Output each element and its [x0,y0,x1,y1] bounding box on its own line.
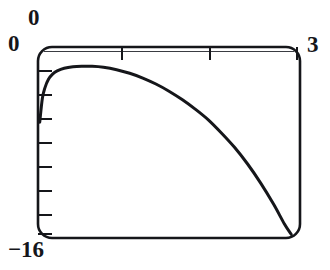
chart-figure: 0 0 3 −16 [0,0,330,270]
axis-label-y-max: 0 [28,6,40,29]
axis-label-x-max: 3 [307,33,319,56]
axis-label-y-min: −16 [8,238,44,261]
plot-canvas [0,0,330,270]
plot-frame [38,47,300,238]
axis-label-x-min: 0 [8,32,20,55]
